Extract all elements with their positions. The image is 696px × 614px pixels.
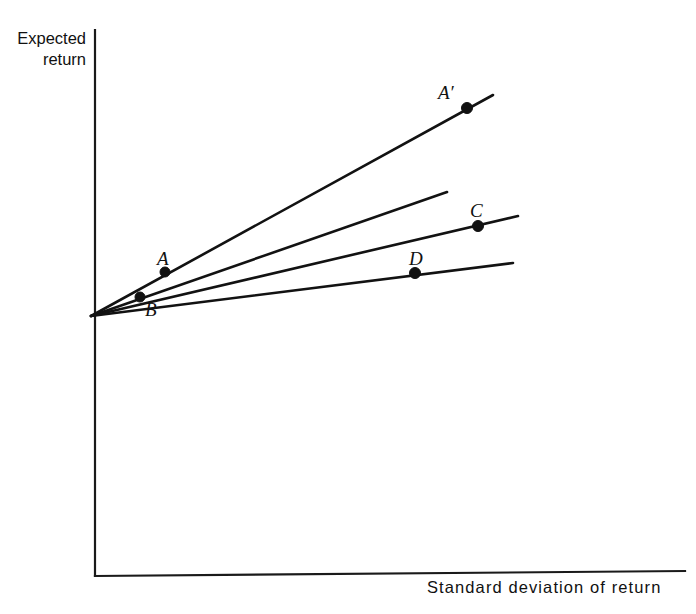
point-label-d: D	[409, 249, 423, 268]
y-axis-title-line1: Expected	[17, 29, 86, 47]
data-point-a-prime	[462, 103, 473, 114]
y-axis-title-line2: return	[43, 50, 86, 68]
x-axis-line	[95, 571, 685, 576]
point-label-a: A	[157, 249, 169, 268]
figure-root: Expectedreturn Standard deviation of ret…	[0, 0, 696, 614]
point-label-c: C	[470, 201, 483, 220]
point-label-a-prime: A′	[438, 83, 454, 102]
ray-line-a	[91, 95, 493, 316]
data-point-d	[410, 268, 421, 279]
point-label-b: B	[145, 300, 157, 319]
axes-group	[95, 30, 685, 576]
y-axis-title: Expectedreturn	[2, 28, 86, 70]
chart-canvas	[0, 0, 696, 614]
ray-lines-group	[91, 95, 518, 316]
data-point-c	[473, 221, 484, 232]
x-axis-title: Standard deviation of return	[427, 578, 661, 597]
data-point-b	[135, 292, 145, 302]
